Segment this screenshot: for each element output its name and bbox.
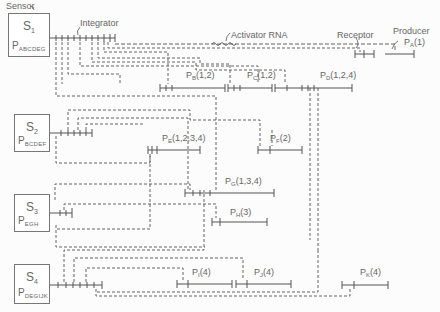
producer-letter: P	[18, 287, 25, 298]
receptor-annotation: Receptor	[337, 31, 374, 40]
producer-label-pa: PA(1)	[404, 38, 425, 48]
producer-label-pk: PK(4)	[360, 268, 381, 278]
sensor-index: 4	[34, 278, 38, 285]
producer-letter: P	[12, 40, 19, 51]
producer-label-pi: PI(4)	[192, 268, 211, 278]
sensor-box-s3: S3 PEGH	[14, 194, 50, 232]
producer-annotation: Producer	[393, 27, 430, 36]
producer-subscript: DEGIJK	[25, 293, 48, 299]
producer-label-pg: PG(1,3,4)	[225, 177, 262, 187]
gene-regulatory-network-diagram: Sensor Integrator Activator RNA Receptor…	[0, 0, 440, 312]
sensor-letter: S	[26, 200, 34, 214]
producer-letter: P	[18, 215, 25, 226]
sensor-box-s4: S4 PDEGIJK	[14, 264, 50, 304]
producer-label-pj: PJ(4)	[254, 268, 274, 278]
producer-subscript: BCDEF	[25, 141, 47, 147]
producer-letter: P	[18, 135, 25, 146]
sensor-letter: S	[23, 19, 31, 33]
producer-subscript: EGH	[25, 221, 39, 227]
sensor-letter: S	[26, 120, 34, 134]
sensor-index: 1	[31, 27, 35, 34]
sensor-annotation: Sensor	[6, 2, 35, 11]
activator-rna-annotation: Activator RNA	[231, 31, 288, 40]
sensor-letter: S	[26, 270, 34, 284]
producer-label-pc: PC(1,2)	[247, 71, 276, 81]
integrator-annotation: Integrator	[80, 19, 119, 28]
producer-subscript: ABCDEG	[19, 46, 46, 52]
producer-label-pf: PF(2)	[270, 134, 291, 144]
producer-label-pb: PB(1,2)	[186, 71, 215, 81]
producer-label-ph: PH(3)	[230, 208, 251, 218]
sensor-box-s2: S2 PBCDEF	[14, 114, 50, 152]
producer-label-pe: PE(1,2,3,4)	[162, 134, 206, 144]
diagram-lines	[0, 0, 440, 312]
producer-label-pd: PD(1,2,4)	[320, 71, 356, 81]
sensor-box-s1: S1 PABCDEG	[8, 13, 50, 57]
